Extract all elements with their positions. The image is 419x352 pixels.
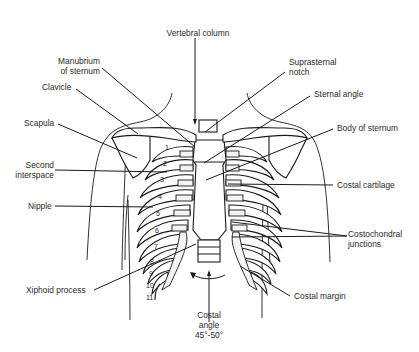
label-second-interspace: Second interspace <box>0 160 54 180</box>
label-nipple: Nipple <box>28 201 52 211</box>
svg-text:9: 9 <box>149 270 153 277</box>
svg-text:1: 1 <box>165 144 169 151</box>
svg-text:11: 11 <box>146 294 153 301</box>
svg-text:3: 3 <box>160 176 164 183</box>
label-second-interspace-line1: Second <box>0 160 54 170</box>
label-clavicle: Clavicle <box>42 82 71 92</box>
label-costal-angle-line3: 45°-50° <box>179 330 239 340</box>
rib-cage-illustration: 1 2 3 4 5 6 7 8 9 10 11 <box>0 0 419 352</box>
label-second-interspace-line2: interspace <box>0 170 54 180</box>
svg-text:2: 2 <box>163 160 167 167</box>
svg-text:5: 5 <box>156 210 160 217</box>
label-body-of-sternum: Body of sternum <box>337 123 398 133</box>
label-costal-angle-line2: angle <box>179 320 239 330</box>
label-suprasternal-notch: Suprasternal notch <box>289 57 337 77</box>
label-xiphoid-process: Xiphoid process <box>26 285 86 295</box>
label-manubrium: Manubrium of sternum <box>40 56 100 76</box>
label-costochondral-junctions: Costochondral junctions <box>348 229 402 249</box>
label-manubrium-line1: Manubrium <box>40 56 100 66</box>
label-costal-angle-line1: Costal <box>179 310 239 320</box>
label-vertebral-column: Vertebral column <box>163 28 233 38</box>
label-manubrium-line2: of sternum <box>40 66 100 76</box>
svg-text:4: 4 <box>158 193 162 200</box>
label-suprasternal-line1: Suprasternal <box>289 57 337 67</box>
label-costal-margin: Costal margin <box>294 291 346 301</box>
label-suprasternal-line2: notch <box>289 67 337 77</box>
label-costochondral-line1: Costochondral <box>348 229 402 239</box>
label-scapula: Scapula <box>24 118 54 128</box>
sternum <box>193 120 226 262</box>
thorax-diagram: 1 2 3 4 5 6 7 8 9 10 11 <box>0 0 419 352</box>
label-costal-angle: Costal angle 45°-50° <box>179 310 239 340</box>
svg-text:7: 7 <box>154 243 158 250</box>
svg-text:6: 6 <box>155 227 159 234</box>
label-sternal-angle: Sternal angle <box>314 89 363 99</box>
label-costal-cartilage: Costal cartilage <box>337 180 395 190</box>
svg-text:10: 10 <box>146 282 154 289</box>
label-costochondral-line2: junctions <box>348 239 402 249</box>
